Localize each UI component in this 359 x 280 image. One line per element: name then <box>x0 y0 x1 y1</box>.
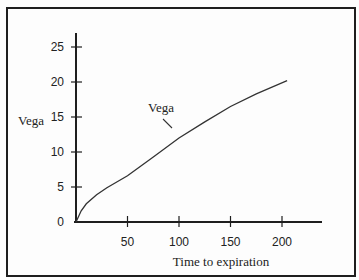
x-tick-label: 100 <box>169 235 189 249</box>
vega-chart: 051015202550100150200 Vega Vega Time to … <box>0 0 359 280</box>
y-tick-label: 25 <box>51 40 65 54</box>
curve-annotation-label: Vega <box>148 100 174 115</box>
x-axis-title: Time to expiration <box>173 254 270 269</box>
y-tick-label: 10 <box>51 145 65 159</box>
vega-curve <box>76 81 287 222</box>
x-tick-label: 200 <box>272 235 292 249</box>
y-tick-label: 15 <box>51 110 65 124</box>
y-tick-label: 0 <box>57 215 64 229</box>
ticks: 051015202550100150200 <box>51 40 293 249</box>
x-tick-label: 150 <box>220 235 240 249</box>
annotation-leader-line <box>163 119 172 128</box>
y-tick-label: 20 <box>51 75 65 89</box>
axes <box>74 33 322 222</box>
y-axis-title: Vega <box>18 113 44 128</box>
x-tick-label: 50 <box>121 235 135 249</box>
y-tick-label: 5 <box>57 180 64 194</box>
